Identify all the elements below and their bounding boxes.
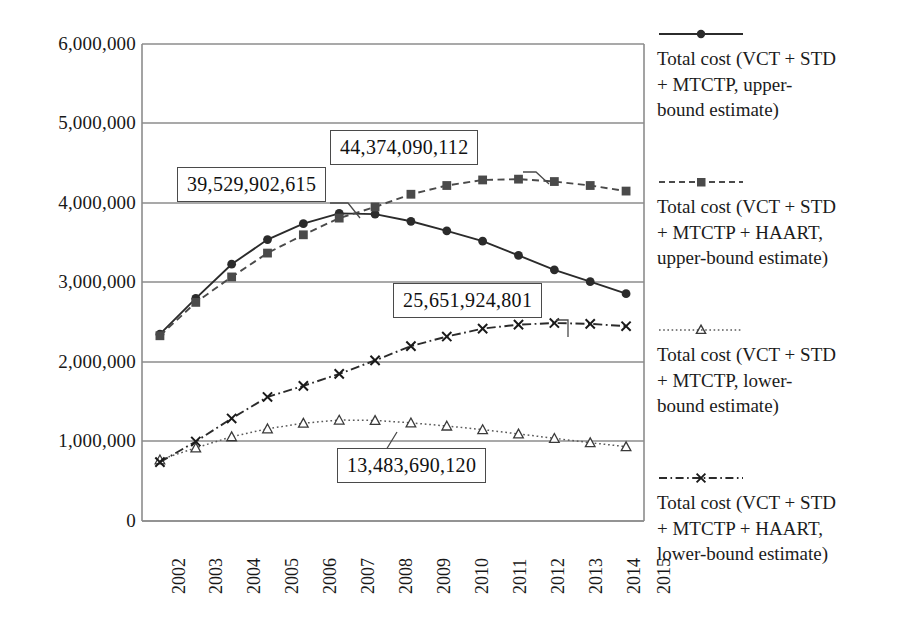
x-tick-label: 2013 xyxy=(587,558,605,594)
data-callout: 39,529,902,615 xyxy=(177,167,326,202)
x-tick-label: 2007 xyxy=(359,558,377,594)
x-tick-label: 2002 xyxy=(170,558,188,594)
x-tick-label: 2008 xyxy=(397,558,415,594)
x-tick-label: 2003 xyxy=(207,558,225,594)
legend-item[interactable]: Total cost (VCT + STD + MTCTP + HAART, l… xyxy=(657,470,899,567)
legend-item[interactable]: Total cost (VCT + STD + MTCTP, upper- bo… xyxy=(657,26,899,123)
legend-item[interactable]: Total cost (VCT + STD + MTCTP + HAART, u… xyxy=(657,174,899,271)
legend-key xyxy=(657,322,745,338)
x-tick-label: 2014 xyxy=(625,558,643,594)
legend-label: Total cost (VCT + STD + MTCTP + HAART, u… xyxy=(657,194,895,271)
legend-key xyxy=(657,26,745,42)
legend-label: Total cost (VCT + STD + MTCTP + HAART, l… xyxy=(657,490,895,567)
x-tick-label: 2005 xyxy=(283,558,301,594)
x-tick-label: 2009 xyxy=(435,558,453,594)
chart-figure: 6,000,000 5,000,000 4,000,000 3,000,000 … xyxy=(0,0,899,620)
x-tick-label: 2004 xyxy=(245,558,263,594)
x-tick-label: 2006 xyxy=(321,558,339,594)
legend-item[interactable]: Total cost (VCT + STD + MTCTP, lower- bo… xyxy=(657,322,899,419)
data-callout: 13,483,690,120 xyxy=(337,448,486,483)
legend-label: Total cost (VCT + STD + MTCTP, lower- bo… xyxy=(657,342,895,419)
x-tick-label: 2011 xyxy=(511,559,529,594)
legend-key xyxy=(657,470,745,486)
legend-label: Total cost (VCT + STD + MTCTP, upper- bo… xyxy=(657,46,895,123)
chart-legend: Total cost (VCT + STD + MTCTP, upper- bo… xyxy=(657,26,899,606)
data-callout: 44,374,090,112 xyxy=(330,130,478,165)
legend-key xyxy=(657,174,745,190)
x-tick-label: 2012 xyxy=(549,558,567,594)
data-callout: 25,651,924,801 xyxy=(393,283,542,318)
x-tick-label: 2010 xyxy=(473,558,491,594)
